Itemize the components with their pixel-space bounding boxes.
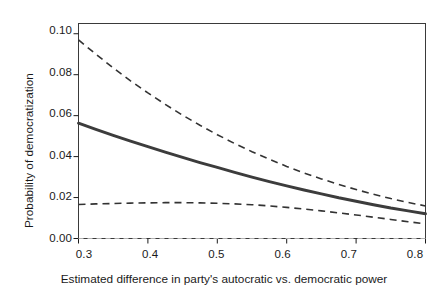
x-tick-label-4: 0.7 bbox=[324, 248, 374, 260]
x-tick-label-3: 0.6 bbox=[258, 248, 308, 260]
x-tick-label-5: 0.8 bbox=[390, 248, 440, 260]
y-axis-tick-marks bbox=[74, 34, 79, 239]
y-tick-label-0: 0.10 bbox=[26, 24, 72, 36]
x-axis-tick-marks bbox=[79, 239, 426, 244]
y-tick-label-5: 0.00 bbox=[26, 232, 72, 244]
x-tick-label-0: 0.3 bbox=[59, 248, 109, 260]
x-tick-label-1: 0.4 bbox=[125, 248, 175, 260]
y-axis-title: Probability of democratization bbox=[22, 73, 36, 228]
x-axis-title: Estimated difference in party's autocrat… bbox=[0, 272, 448, 286]
x-tick-label-2: 0.5 bbox=[191, 248, 241, 260]
chart-figure: 0.10 0.08 0.06 0.04 0.02 0.00 0.3 0.4 0.… bbox=[0, 0, 448, 298]
plot-frame bbox=[79, 24, 426, 239]
